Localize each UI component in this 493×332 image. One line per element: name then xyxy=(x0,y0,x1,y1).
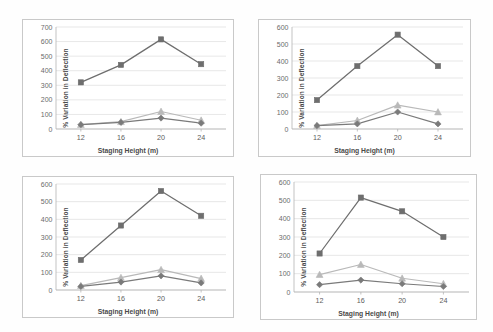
marker-triangle xyxy=(158,108,165,114)
chart-canvas: 010020030040050060012162024 xyxy=(261,175,476,319)
series-line-series-2 xyxy=(317,105,438,125)
marker-diamond xyxy=(395,109,401,115)
marker-square xyxy=(400,209,405,214)
marker-triangle xyxy=(158,266,165,272)
y-tick-label: 0 xyxy=(49,287,53,294)
marker-square xyxy=(317,251,322,256)
series-line-series-3 xyxy=(81,276,201,287)
x-tick-label: 24 xyxy=(439,296,447,305)
series-line-series-2 xyxy=(81,112,201,125)
plot-area-wrapper: % Variation in Deflection 01002003004005… xyxy=(259,20,470,156)
y-tick-label: 100 xyxy=(279,270,291,277)
y-tick-label: 300 xyxy=(41,82,53,89)
chart-panel-top-left: % Variation in Deflection 01002003004005… xyxy=(0,0,246,166)
series-line-series-3 xyxy=(81,118,201,125)
y-tick-label: 600 xyxy=(277,24,289,31)
y-tick-label: 400 xyxy=(279,215,291,222)
marker-diamond xyxy=(399,281,405,287)
y-tick-label: 300 xyxy=(279,234,291,241)
panel-frame: % Variation in Deflection 01002003004005… xyxy=(258,19,471,157)
y-tick-label: 100 xyxy=(277,109,289,116)
y-tick-label: 400 xyxy=(41,67,53,74)
x-tick-label: 20 xyxy=(157,294,165,303)
marker-triangle xyxy=(394,102,401,108)
chart-panel-bottom-right: % Variation in Deflection 01002003004005… xyxy=(246,166,493,332)
chart-panel-bottom-left: % Variation in Deflection 01002003004005… xyxy=(0,166,246,332)
x-tick-label: 12 xyxy=(77,294,85,303)
y-tick-label: 600 xyxy=(41,181,53,188)
x-tick-label: 20 xyxy=(394,133,402,142)
x-tick-label: 16 xyxy=(117,294,125,303)
x-tick-label: 16 xyxy=(117,133,125,142)
marker-square xyxy=(158,188,163,193)
x-tick-label: 16 xyxy=(357,296,365,305)
series-line-series-2 xyxy=(320,265,444,284)
marker-square xyxy=(78,80,83,85)
chart-panel-top-right: % Variation in Deflection 01002003004005… xyxy=(246,0,493,166)
x-axis-title: Staging Height (m) xyxy=(23,308,233,315)
y-tick-label: 500 xyxy=(279,197,291,204)
y-tick-label: 500 xyxy=(277,41,289,48)
panel-frame: % Variation in Deflection 01002003004005… xyxy=(260,174,477,320)
y-tick-label: 600 xyxy=(41,38,53,45)
x-axis-title: Staging Height (m) xyxy=(261,310,476,317)
figure-four-panel-charts: % Variation in Deflection 01002003004005… xyxy=(0,0,493,332)
plot-area-wrapper: % Variation in Deflection 01002003004005… xyxy=(23,177,233,317)
y-tick-label: 300 xyxy=(277,75,289,82)
x-axis-title: Staging Height (m) xyxy=(23,147,233,154)
y-tick-label: 200 xyxy=(41,96,53,103)
x-axis-title: Staging Height (m) xyxy=(259,147,470,154)
panel-frame: % Variation in Deflection 01002003004005… xyxy=(22,176,234,318)
y-tick-label: 100 xyxy=(41,111,53,118)
y-tick-label: 700 xyxy=(41,24,53,31)
marker-square xyxy=(78,257,83,262)
x-tick-label: 20 xyxy=(398,296,406,305)
marker-square xyxy=(199,62,204,67)
y-tick-label: 300 xyxy=(41,234,53,241)
x-tick-label: 16 xyxy=(353,133,361,142)
marker-diamond xyxy=(158,115,164,121)
marker-square xyxy=(435,64,440,69)
x-tick-label: 12 xyxy=(313,133,321,142)
marker-diamond xyxy=(316,282,322,288)
marker-square xyxy=(118,223,123,228)
series-line-series-1 xyxy=(317,35,438,100)
x-tick-label: 24 xyxy=(197,294,205,303)
y-tick-label: 0 xyxy=(285,126,289,133)
marker-square xyxy=(118,62,123,67)
chart-canvas: 010020030040050060012162024 xyxy=(23,177,233,317)
marker-diamond xyxy=(435,121,441,127)
y-tick-label: 200 xyxy=(277,92,289,99)
y-tick-label: 0 xyxy=(49,126,53,133)
marker-triangle xyxy=(357,261,364,267)
marker-diamond xyxy=(358,277,364,283)
y-tick-label: 400 xyxy=(277,58,289,65)
marker-square xyxy=(441,234,446,239)
y-tick-label: 600 xyxy=(279,179,291,186)
marker-square xyxy=(395,32,400,37)
series-line-series-1 xyxy=(81,39,201,82)
marker-diamond xyxy=(158,273,164,279)
x-tick-label: 20 xyxy=(157,133,165,142)
y-tick-label: 400 xyxy=(41,216,53,223)
y-tick-label: 0 xyxy=(287,289,291,296)
y-tick-label: 500 xyxy=(41,53,53,60)
y-tick-label: 200 xyxy=(41,251,53,258)
marker-square xyxy=(355,64,360,69)
marker-square xyxy=(314,98,319,103)
plot-area-wrapper: % Variation in Deflection 01002003004005… xyxy=(261,175,476,319)
series-line-series-1 xyxy=(320,198,444,254)
y-tick-label: 500 xyxy=(41,198,53,205)
plot-area-wrapper: % Variation in Deflection 01002003004005… xyxy=(23,20,233,156)
y-tick-label: 100 xyxy=(41,269,53,276)
x-tick-label: 12 xyxy=(316,296,324,305)
y-tick-label: 200 xyxy=(279,252,291,259)
x-tick-label: 24 xyxy=(434,133,442,142)
chart-canvas: 010020030040050060012162024 xyxy=(259,20,470,156)
x-tick-label: 12 xyxy=(77,133,85,142)
marker-square xyxy=(358,195,363,200)
marker-square xyxy=(158,37,163,42)
chart-canvas: 010020030040050060070012162024 xyxy=(23,20,233,156)
panel-frame: % Variation in Deflection 01002003004005… xyxy=(22,19,234,157)
x-tick-label: 24 xyxy=(197,133,205,142)
